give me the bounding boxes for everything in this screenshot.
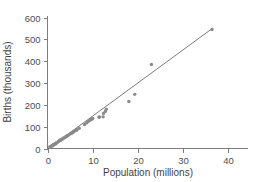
y-axis-ticks <box>44 19 48 150</box>
data-point <box>133 93 136 96</box>
scatter-plot-figure: 0100200300400500600 010203040 Population… <box>0 0 265 182</box>
data-point <box>101 115 104 118</box>
x-tick-label: 0 <box>46 155 51 166</box>
y-tick-label: 100 <box>25 122 41 133</box>
data-point <box>127 100 130 103</box>
x-axis-ticks <box>49 149 229 153</box>
data-point <box>91 117 94 120</box>
y-tick-label: 0 <box>35 144 40 155</box>
y-axis-title: Births (thousands) <box>2 41 13 122</box>
x-tick-label: 10 <box>88 155 99 166</box>
data-point <box>210 28 213 31</box>
y-tick-label: 200 <box>25 100 41 111</box>
y-tick-label: 400 <box>25 56 41 67</box>
data-point <box>105 108 108 111</box>
x-tick-label: 20 <box>133 155 144 166</box>
x-axis-tick-labels: 010203040 <box>46 155 234 166</box>
y-axis-tick-labels: 0100200300400500600 <box>25 13 41 155</box>
data-point <box>77 126 80 129</box>
data-point <box>98 115 101 118</box>
data-point <box>150 63 153 66</box>
x-axis-title: Population (millions) <box>103 167 193 178</box>
plot-area: 0100200300400500600 010203040 Population… <box>0 0 265 182</box>
x-tick-label: 40 <box>223 155 234 166</box>
x-tick-label: 30 <box>178 155 189 166</box>
y-tick-label: 300 <box>25 78 41 89</box>
y-tick-label: 500 <box>25 34 41 45</box>
y-tick-label: 600 <box>25 13 41 24</box>
